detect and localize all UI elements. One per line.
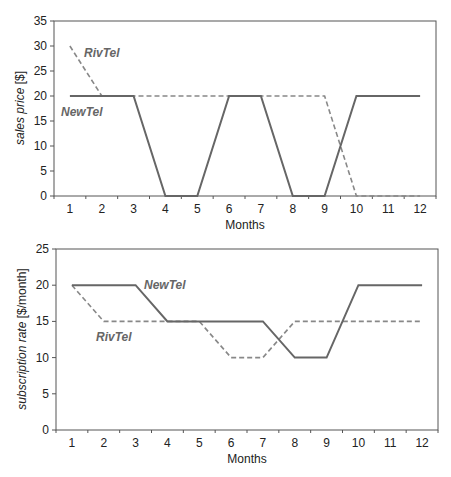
x-tick-label: 7 <box>260 436 267 450</box>
y-tick-label: 15 <box>36 314 50 328</box>
bottom-rivtel-label: RivTel <box>96 330 132 344</box>
top-y-axis-title: sales price [$] <box>13 71 27 145</box>
y-tick-label: 5 <box>40 164 47 178</box>
y-tick-label: 20 <box>34 89 48 103</box>
bottom-y-axis: 0510152025 <box>36 242 56 437</box>
x-tick-label: 9 <box>321 202 328 216</box>
x-tick-label: 12 <box>415 436 429 450</box>
top-chart: 05101520253035 123456789101112 Months sa… <box>13 14 436 232</box>
x-tick-label: 4 <box>164 436 171 450</box>
x-tick-label: 1 <box>67 202 74 216</box>
y-tick-label: 25 <box>34 64 48 78</box>
top-y-axis: 05101520253035 <box>34 14 54 203</box>
x-tick-label: 6 <box>228 436 235 450</box>
x-tick-label: 10 <box>352 436 366 450</box>
x-tick-label: 2 <box>100 436 107 450</box>
x-tick-label: 8 <box>289 202 296 216</box>
bottom-series <box>72 285 422 357</box>
x-tick-label: 2 <box>98 202 105 216</box>
x-tick-label: 5 <box>196 436 203 450</box>
y-tick-label: 15 <box>34 114 48 128</box>
x-tick-label: 11 <box>384 436 397 450</box>
x-tick-label: 3 <box>132 436 139 450</box>
series-line-newtel <box>70 96 420 196</box>
x-tick-label: 8 <box>291 436 298 450</box>
x-tick-label: 7 <box>258 202 265 216</box>
top-newtel-label: NewTel <box>61 105 103 119</box>
y-tick-label: 10 <box>34 139 48 153</box>
top-x-axis: 123456789101112 <box>54 196 436 216</box>
top-x-axis-title: Months <box>225 218 264 232</box>
y-tick-label: 25 <box>36 242 50 256</box>
bottom-x-axis-title: Months <box>227 452 266 466</box>
x-tick-label: 3 <box>130 202 137 216</box>
x-tick-label: 11 <box>382 202 395 216</box>
x-tick-label: 12 <box>413 202 427 216</box>
y-tick-label: 0 <box>40 189 47 203</box>
bottom-x-axis: 123456789101112 <box>56 430 438 450</box>
y-tick-label: 35 <box>34 14 48 28</box>
bottom-newtel-label: NewTel <box>144 278 186 292</box>
y-tick-label: 5 <box>42 387 49 401</box>
y-tick-label: 30 <box>34 39 48 53</box>
y-tick-label: 0 <box>42 423 49 437</box>
x-tick-label: 5 <box>194 202 201 216</box>
y-tick-label: 20 <box>36 278 50 292</box>
x-tick-label: 1 <box>69 436 76 450</box>
top-series <box>70 46 420 196</box>
y-tick-label: 10 <box>36 351 50 365</box>
charts-canvas: 05101520253035 123456789101112 Months sa… <box>0 0 451 477</box>
bottom-chart: 0510152025 123456789101112 Months subscr… <box>15 242 438 466</box>
x-tick-label: 10 <box>350 202 364 216</box>
series-line-rivtel <box>70 46 420 196</box>
x-tick-label: 6 <box>226 202 233 216</box>
x-tick-label: 9 <box>323 436 330 450</box>
bottom-y-axis-title: subscription rate [$/month] <box>15 268 29 409</box>
top-rivtel-label: RivTel <box>84 46 120 60</box>
x-tick-label: 4 <box>162 202 169 216</box>
